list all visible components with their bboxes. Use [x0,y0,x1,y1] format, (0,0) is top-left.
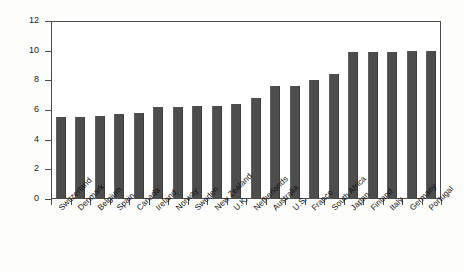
risk-premium-bar-chart: Risk premium, % 024681012 SwitzerlandDen… [0,0,464,272]
bar [56,117,66,199]
y-tick-label: 0 [34,193,39,203]
y-tick-label: 12 [29,15,39,25]
bar [251,98,261,199]
y-axis-title: Risk premium, % [2,0,16,49]
bar [348,52,358,199]
bar [329,74,339,199]
x-tick-mark [51,199,52,205]
y-tick-label: 10 [29,45,39,55]
y-tick-label: 8 [34,74,39,84]
bar [426,51,436,199]
bar [387,52,397,199]
bar [309,80,319,199]
y-tick-label: 6 [34,104,39,114]
x-axis-labels: SwitzerlandDenmarkBelgiumSpainCanadaIrel… [51,206,451,272]
bar [134,113,144,199]
y-tick-label: 4 [34,134,39,144]
bar [192,106,202,199]
y-tick-label: 2 [34,163,39,173]
bar [290,86,300,199]
bar [368,52,378,199]
bar [407,51,417,199]
bar [173,107,183,199]
